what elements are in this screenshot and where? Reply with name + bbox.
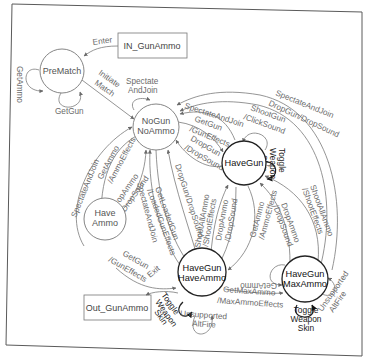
- exit-box: Out_GunAmmo: [84, 295, 151, 320]
- label-spectate-top-2: AndJoin: [128, 86, 158, 95]
- label-max-getammo: GetAmmo: [240, 281, 277, 290]
- exit-box-label: Out_GunAmmo: [86, 303, 149, 313]
- state-prematch: PreMatch: [40, 49, 84, 93]
- state-havegun: HaveGun: [222, 141, 266, 185]
- state-havegun-haveammo-line1: HaveGun: [183, 263, 222, 273]
- state-nogun-noammo-line1: NoGun: [142, 116, 171, 126]
- state-haveammo-line1: Have: [94, 208, 115, 218]
- state-havegun-label: HaveGun: [225, 158, 264, 168]
- label-spectate-top-1: Spectate: [126, 77, 159, 86]
- state-haveammo: Have Ammo: [84, 198, 126, 240]
- label-unsupported-hh-2: AltFire: [192, 319, 217, 330]
- state-havegun-haveammo-line2: HaveAmmo: [178, 273, 226, 283]
- state-haveammo-line2: Ammo: [92, 218, 118, 228]
- state-nogun-noammo-line2: NoAmmo: [137, 126, 175, 136]
- entry-box-label: IN_GunAmmo: [123, 41, 180, 51]
- label-prematch-getgun: GetGun: [55, 107, 84, 116]
- state-havegun-haveammo: HaveGun HaveAmmo: [178, 248, 226, 296]
- label-prematch-getammo: GetAmmo: [15, 66, 24, 103]
- state-havegun-maxammo-line1: HaveGun: [286, 269, 325, 279]
- state-havegun-maxammo: HaveGun MaxAmmo: [282, 256, 328, 302]
- state-prematch-label: PreMatch: [43, 66, 82, 76]
- state-diagram: IN_GunAmmo Out_GunAmmo Enter GetAmmo Get…: [0, 0, 365, 360]
- state-nogun-noammo: NoGun NoAmmo: [133, 104, 179, 150]
- state-havegun-maxammo-line2: MaxAmmo: [283, 279, 327, 289]
- entry-box: IN_GunAmmo: [118, 33, 187, 58]
- label-toggle-max-3: Skin: [298, 323, 315, 333]
